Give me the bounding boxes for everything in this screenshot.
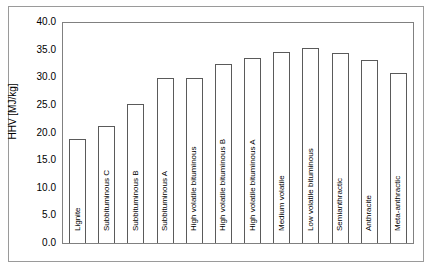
bar-category-label: High volatile bituminous A [249,139,257,231]
bar: Semianthractic [332,53,349,243]
bar: High volatile bituminous A [244,58,261,243]
bar-category-label: Lignite [74,207,82,231]
y-axis-tick-labels: 40.035.030.025.020.015.010.05.00.0 [20,0,56,271]
y-axis-tick-label: 15.0 [20,155,56,165]
y-axis-tick-label: 10.0 [20,183,56,193]
bar: Subbituminous A [157,78,174,243]
bar: High volatile bituminous [186,78,203,243]
bar-category-label: Subbituminous C [103,170,111,231]
y-axis-tick-label: 40.0 [20,17,56,27]
y-axis-tick-label: 20.0 [20,128,56,138]
bar: High volatile bituminous B [215,64,232,243]
bar-category-label: Semianthractic [336,178,344,231]
bar-category-label: Anthracite [365,195,373,231]
bar-chart: HHV [MJ/kg] 40.035.030.025.020.015.010.0… [0,0,434,271]
plot-area: LigniteSubbituminous CSubbituminous BSub… [62,22,414,244]
bar: Low volatile bituminous [302,48,319,243]
bar: Lignite [69,139,86,244]
bar-category-label: Subbituminous A [161,171,169,231]
y-axis-title: HHV [MJ/kg] [7,67,18,157]
bars-container: LigniteSubbituminous CSubbituminous BSub… [63,23,413,243]
bar-category-label: Medium volatile [278,175,286,231]
bar-category-label: High volatile bituminous [190,147,198,232]
y-axis-tick-label: 0.0 [20,238,56,248]
y-axis-tick-label: 25.0 [20,100,56,110]
y-axis-tick-label: 30.0 [20,72,56,82]
bar-category-label: High volatile bituminous B [219,139,227,231]
y-axis-tick-label: 5.0 [20,210,56,220]
bar: Anthracite [361,60,378,243]
bar-category-label: Low volatile bituminous [307,148,315,231]
bar: Subbituminous C [98,126,115,243]
bar-category-label: Meta-anthractic [394,176,402,231]
bar: Medium volatile [273,52,290,243]
bar-category-label: Subbituminous B [132,171,140,231]
bar: Subbituminous B [127,104,144,243]
bar: Meta-anthractic [390,73,407,244]
y-axis-tick-label: 35.0 [20,45,56,55]
